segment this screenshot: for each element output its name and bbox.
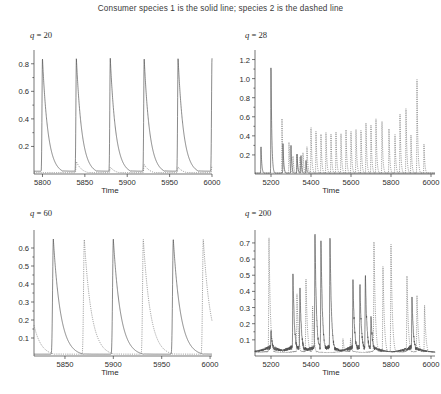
panel-q60-y-ticklabel: 0.6 bbox=[0, 244, 29, 253]
panel-q60-plot: 0.10.20.30.40.50.65850590059506000 bbox=[0, 204, 220, 394]
panel-q200-y-ticklabel: 0.6 bbox=[221, 255, 250, 264]
panel-q60-series-1-solid bbox=[34, 239, 212, 354]
panel-q28-y-ticklabel: 1.0 bbox=[221, 74, 250, 83]
figure-title: Consumer species 1 is the solid line; sp… bbox=[0, 4, 441, 13]
panel-q20-series-1-solid bbox=[34, 58, 212, 171]
panel-q28: q = 28 0.20.40.60.81.01.2520054005600580… bbox=[221, 26, 441, 206]
panel-q200-y-ticklabel: 0.1 bbox=[221, 335, 250, 344]
panel-q200: q = 200 0.10.20.30.40.50.60.752005400560… bbox=[221, 204, 441, 394]
panel-q20-y-ticklabel: 0.2 bbox=[0, 142, 29, 151]
panel-q28-series-2-dashed bbox=[255, 80, 435, 173]
panel-q20-svg bbox=[0, 26, 220, 206]
panel-q20-y-ticklabel: 0.8 bbox=[0, 59, 29, 68]
panel-q60-xaxis-title: Time bbox=[0, 368, 220, 377]
panel-q28-y-ticklabel: 0.4 bbox=[221, 131, 250, 140]
panel-q20: q = 20 0.20.40.60.858005850590059506000 … bbox=[0, 26, 220, 206]
panel-q20-y-ticklabel: 0.6 bbox=[0, 87, 29, 96]
panel-q60-series-2-dashed bbox=[34, 239, 212, 354]
panel-q60-y-ticklabel: 0.1 bbox=[0, 334, 29, 343]
panel-q28-y-ticklabel: 0.8 bbox=[221, 93, 250, 102]
panel-q28-svg bbox=[221, 26, 441, 206]
panel-q200-plot: 0.10.20.30.40.50.60.75200540056005800600… bbox=[221, 204, 441, 394]
panel-q28-y-ticklabel: 0.6 bbox=[221, 112, 250, 121]
panel-q60-y-ticklabel: 0.5 bbox=[0, 262, 29, 271]
panel-q200-y-ticklabel: 0.4 bbox=[221, 287, 250, 296]
panel-q28-xaxis-title: Time bbox=[221, 186, 441, 195]
panel-q28-y-ticklabel: 1.2 bbox=[221, 55, 250, 64]
panel-q20-xaxis-title: Time bbox=[0, 186, 220, 195]
panel-q28-plot: 0.20.40.60.81.01.252005400560058006000 bbox=[221, 26, 441, 206]
panel-q200-xaxis-title: Time bbox=[221, 368, 441, 377]
panel-q60-y-ticklabel: 0.2 bbox=[0, 316, 29, 325]
panel-q20-plot: 0.20.40.60.858005850590059506000 bbox=[0, 26, 220, 206]
panel-q60: q = 60 0.10.20.30.40.50.6585059005950600… bbox=[0, 204, 220, 394]
panel-q20-y-ticklabel: 0.4 bbox=[0, 114, 29, 123]
panel-q200-y-ticklabel: 0.3 bbox=[221, 303, 250, 312]
panel-q200-y-ticklabel: 0.2 bbox=[221, 319, 250, 328]
panel-q200-y-ticklabel: 0.5 bbox=[221, 271, 250, 280]
panel-q28-y-ticklabel: 0.2 bbox=[221, 150, 250, 159]
panel-q200-series-1-solid bbox=[255, 234, 435, 352]
panel-q200-series-2-dashed bbox=[255, 238, 435, 353]
panel-q200-y-ticklabel: 0.7 bbox=[221, 238, 250, 247]
panel-q60-y-ticklabel: 0.4 bbox=[0, 280, 29, 289]
panel-q20-series-2-dashed bbox=[34, 162, 212, 173]
panel-q60-y-ticklabel: 0.3 bbox=[0, 298, 29, 307]
panel-q200-svg bbox=[221, 204, 441, 394]
